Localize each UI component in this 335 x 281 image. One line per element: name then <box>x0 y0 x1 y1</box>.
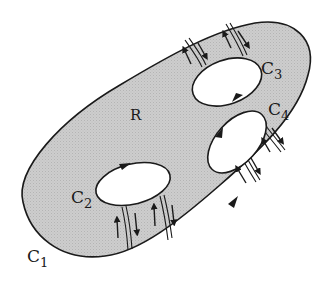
region-label: R <box>130 106 142 124</box>
region-diagram: R C1 C2 C3 C4 <box>0 0 335 281</box>
arrow-c1-icon <box>228 196 238 208</box>
label-c1: C1 <box>27 246 48 270</box>
